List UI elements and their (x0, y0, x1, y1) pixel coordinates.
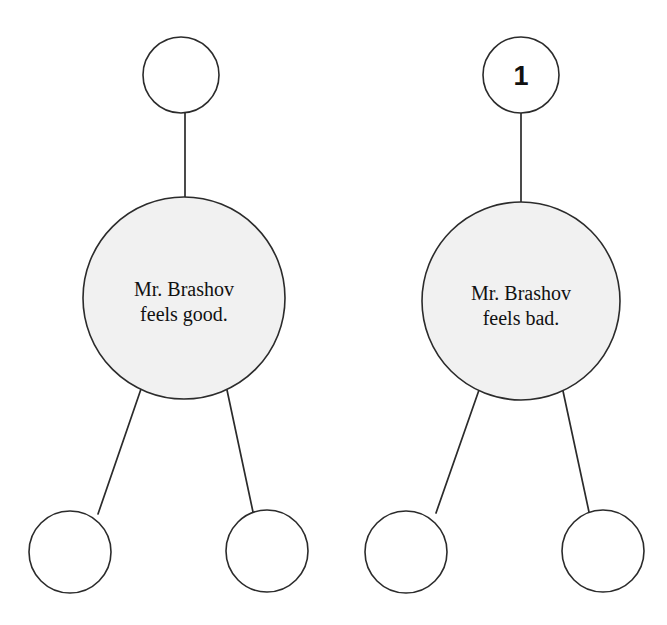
edge-left-center-to-bottom-left (98, 389, 141, 514)
left-center-node-line2: feels good. (140, 303, 228, 326)
left-top-node[interactable] (143, 37, 219, 113)
right-bottom-left-node[interactable] (365, 511, 447, 593)
right-top-node-label: 1 (513, 61, 528, 91)
right-center-node-line1: Mr. Brashov (471, 282, 571, 304)
edge-left-center-to-bottom-right (227, 390, 253, 512)
edge-right-center-to-bottom-right (563, 391, 589, 512)
left-center-node-line1: Mr. Brashov (134, 278, 234, 300)
cluster-right: 1 Mr. Brashov feels bad. (365, 37, 644, 593)
right-bottom-right-node[interactable] (562, 510, 644, 592)
edge-right-center-to-bottom-left (436, 390, 479, 513)
cluster-left: Mr. Brashov feels good. (29, 37, 308, 593)
diagram-canvas: Mr. Brashov feels good. 1 Mr. Brashov fe… (0, 0, 667, 625)
right-center-node-line2: feels bad. (483, 307, 560, 329)
left-bottom-right-node[interactable] (226, 510, 308, 592)
left-bottom-left-node[interactable] (29, 511, 111, 593)
cluster-diagram: Mr. Brashov feels good. 1 Mr. Brashov fe… (0, 0, 667, 625)
